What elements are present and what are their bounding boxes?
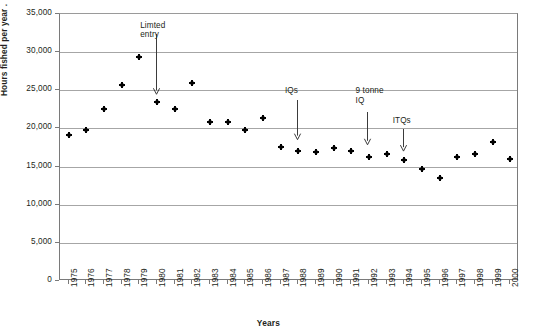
annotation-arrow-iqs [293,100,302,140]
x-axis-tick-mark [315,280,316,284]
data-point [438,176,442,180]
x-axis-tick-mark [68,280,69,284]
x-axis-tick-label: 1998 [477,268,485,287]
annotation-arrow-itqs [399,129,408,151]
x-axis-tick-label: 1989 [318,268,326,287]
x-axis-tick-label: 1976 [88,268,96,287]
plot-area [59,13,518,280]
data-point [120,83,124,87]
data-point [261,116,265,120]
data-point [455,155,459,159]
y-axis-tick-mark [55,280,59,281]
gridline [60,243,517,244]
x-axis-tick-mark [386,280,387,284]
x-axis-tick-label: 1986 [265,268,273,287]
x-axis-tick-label: 1978 [124,268,132,287]
data-point [508,157,512,161]
data-point [385,152,389,156]
x-axis-tick-label: 1975 [71,268,79,287]
y-axis-tick-label: 20,000 [26,123,52,131]
x-axis-tick-label: 1988 [300,268,308,287]
x-axis-tick-label: 1980 [159,268,167,287]
y-axis-title: Hours fished per year . [0,0,9,96]
x-axis-tick-mark [492,280,493,284]
y-axis-tick-label: 10,000 [26,200,52,208]
gridline [60,128,517,129]
x-axis-tick-mark [280,280,281,284]
x-axis-tick-mark [227,280,228,284]
x-axis-tick-mark [474,280,475,284]
x-axis-tick-mark [209,280,210,284]
data-point [314,150,318,154]
annotation-arrow-limited-entry [152,34,161,94]
x-axis-tick-mark [262,280,263,284]
y-axis-tick-label: 0 [47,276,52,284]
x-axis-tick-label: 2000 [512,268,520,287]
data-point [332,146,336,150]
gridline [60,52,517,53]
x-axis-tick-label: 1994 [406,268,414,287]
x-axis-tick-label: 1977 [106,268,114,287]
x-axis-tick-label: 1997 [459,268,467,287]
x-axis-tick-mark [103,280,104,284]
x-axis-title: Years [0,318,537,328]
x-axis-tick-mark [421,280,422,284]
x-axis-tick-label: 1983 [212,268,220,287]
gridline [60,205,517,206]
data-point [243,128,247,132]
data-point [67,133,71,137]
data-point [491,140,495,144]
x-axis-tick-label: 1992 [371,268,379,287]
x-axis-tick-mark [156,280,157,284]
x-axis-tick-label: 1984 [230,268,238,287]
data-point [420,167,424,171]
x-axis-tick-label: 1991 [353,268,361,287]
x-axis-tick-label: 1993 [389,268,397,287]
data-point [226,120,230,124]
data-point [402,158,406,162]
x-axis-tick-label: 1996 [442,268,450,287]
x-axis-tick-label: 1995 [424,268,432,287]
annotation-label-nine-tonne-iq: 9 tonne IQ [356,86,384,105]
data-point [473,152,477,156]
y-axis-tick-label: 25,000 [26,85,52,93]
x-axis-tick-mark [368,280,369,284]
x-axis-tick-label: 1979 [141,268,149,287]
x-axis-tick-label: 1999 [495,268,503,287]
y-axis-tick-label: 5,000 [31,238,52,246]
x-axis-tick-label: 1981 [177,268,185,287]
x-axis-tick-label: 1982 [194,268,202,287]
x-axis-tick-label: 1990 [336,268,344,287]
x-axis-tick-mark [174,280,175,284]
data-point [208,120,212,124]
data-point [102,107,106,111]
y-axis-tick-label: 35,000 [26,9,52,17]
data-point [296,149,300,153]
data-point [367,155,371,159]
data-point [190,81,194,85]
x-axis-tick-mark [333,280,334,284]
x-axis-tick-label: 1987 [283,268,291,287]
x-axis-tick-label: 1985 [247,268,255,287]
annotation-arrow-nine-tonne-iq [363,112,372,145]
annotation-label-itqs: ITQs [393,116,411,125]
data-point [173,107,177,111]
y-axis-tick-label: 15,000 [26,162,52,170]
x-axis-tick-mark [121,280,122,284]
data-point [84,128,88,132]
x-axis-tick-mark [439,280,440,284]
chart-container: Hours fished per year . 05,00010,00015,0… [0,0,537,334]
data-point [155,100,159,104]
data-point [137,55,141,59]
data-point [349,149,353,153]
annotation-label-iqs: IQs [285,86,298,95]
y-axis-tick-label: 30,000 [26,47,52,55]
data-point [279,145,283,149]
gridline [60,167,517,168]
